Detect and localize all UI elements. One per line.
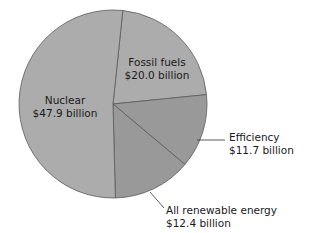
efficiency-label: Efficiency — [229, 131, 280, 143]
renewable-leader-line — [150, 192, 164, 208]
renewable-label: All renewable energy — [166, 204, 277, 216]
fossil-value: $20.0 billion — [125, 69, 190, 81]
nuclear-value: $47.9 billion — [33, 107, 98, 119]
nuclear-label: Nuclear — [45, 94, 86, 106]
renewable-value: $12.4 billion — [166, 217, 231, 229]
pie-chart: Fossil fuels $20.0 billion Nuclear $47.9… — [0, 0, 317, 233]
efficiency-value: $11.7 billion — [229, 144, 294, 156]
fossil-label: Fossil fuels — [128, 56, 185, 68]
